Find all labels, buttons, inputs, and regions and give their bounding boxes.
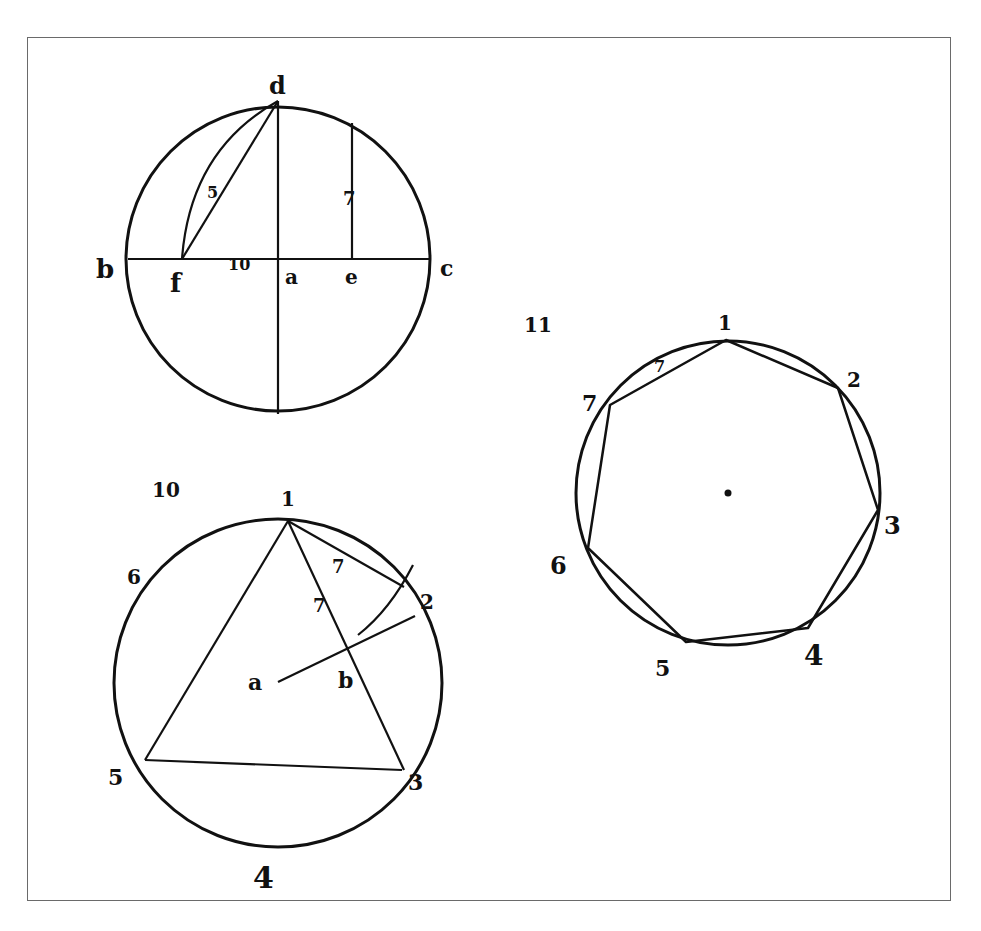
- geometry-plate: dbcf10ae57 10162ab53477 1112345677: [0, 0, 981, 931]
- point-label: 5: [655, 655, 670, 681]
- point-label: 7: [332, 556, 345, 577]
- figure-11-inscribed-heptagon: 1112345677: [524, 311, 901, 681]
- point-label: b: [338, 667, 353, 693]
- point-label: 4: [804, 639, 823, 672]
- point-label: 1: [281, 487, 295, 511]
- point-label: c: [440, 255, 453, 281]
- point-label: 4: [253, 860, 274, 895]
- point-label: 11: [524, 313, 552, 337]
- point-label: 10: [152, 478, 180, 502]
- point-label: 7: [343, 188, 356, 209]
- point-label: f: [170, 268, 183, 298]
- point-label: 2: [420, 590, 434, 614]
- point-label: 6: [550, 551, 567, 580]
- circle: [114, 519, 442, 847]
- point-label: 3: [408, 769, 423, 795]
- point-label: 3: [884, 511, 901, 540]
- center-point: [725, 490, 732, 497]
- point-label: 10: [228, 255, 250, 274]
- construction-line: [145, 760, 402, 770]
- point-label: 7: [654, 357, 665, 376]
- point-label: a: [285, 265, 298, 289]
- point-label: 6: [127, 565, 141, 589]
- figure-circle-diameters: dbcf10ae57: [96, 71, 453, 414]
- figure-10-inscribed-triangle: 10162ab53477: [108, 478, 442, 895]
- point-label: 2: [847, 368, 861, 392]
- point-label: b: [96, 254, 114, 284]
- point-label: 1: [718, 311, 732, 335]
- point-label: 7: [313, 595, 326, 616]
- point-label: 5: [207, 183, 218, 202]
- construction-line: [145, 521, 288, 760]
- point-label: e: [345, 265, 358, 289]
- point-label: 5: [108, 764, 123, 790]
- point-label: 7: [582, 390, 597, 416]
- construction-line: [182, 101, 278, 259]
- point-label: a: [248, 669, 262, 695]
- construction-line: [288, 521, 404, 587]
- inscribed-heptagon: [588, 340, 878, 642]
- point-label: d: [269, 71, 286, 100]
